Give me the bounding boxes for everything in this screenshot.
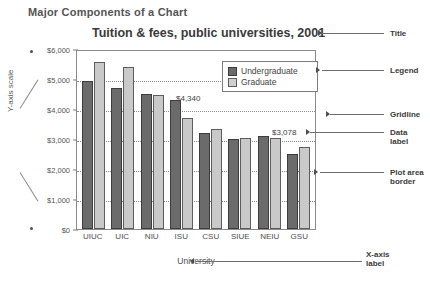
bar [141, 94, 152, 229]
y-axis-tick-label: $1,000 [47, 196, 70, 205]
bar [211, 129, 222, 229]
y-axis-tick-label: $2,000 [47, 166, 70, 175]
callout-arrow-title [318, 30, 322, 36]
bar-group [138, 51, 167, 229]
legend-item-graduate: Graduate [228, 77, 312, 87]
x-axis-tick-label: UIC [108, 232, 138, 246]
x-axis-tick-label: CSU [196, 232, 226, 246]
x-axis-tick-label: ISU [167, 232, 197, 246]
bar [94, 62, 105, 229]
y-axis-tick-label: $3,000 [47, 136, 70, 145]
bar [153, 95, 164, 229]
callout-leader-x-axis [196, 261, 362, 262]
callout-x-axis-label: X-axis label [366, 250, 390, 268]
bar-group [108, 51, 137, 229]
x-axis-tick-label: UIUC [78, 232, 108, 246]
legend: Undergraduate Graduate [222, 61, 318, 92]
callout-leader-plot-border [320, 172, 384, 173]
bar [111, 88, 122, 229]
y-scale-anchor-top [30, 50, 33, 53]
y-axis-tick-label: $6,000 [47, 46, 70, 55]
bar [199, 133, 210, 229]
bar [82, 81, 93, 229]
bar-group [79, 51, 108, 229]
y-axis-tick-label: $0 [62, 226, 70, 235]
y-axis: $0$1,000$2,000$3,000$4,000$5,000$6,000 [30, 50, 74, 230]
callout-arrow-plot-border [314, 169, 318, 175]
bar [123, 67, 134, 229]
x-axis-tick-label: SIUE [226, 232, 256, 246]
callout-legend: Legend [390, 66, 418, 75]
callout-arrow-data-label [306, 129, 310, 135]
bar-group [167, 51, 196, 229]
bar-group [196, 51, 225, 229]
legend-label: Graduate [241, 77, 276, 87]
legend-swatch-icon [228, 78, 237, 87]
x-axis-tick-label: GSU [285, 232, 315, 246]
legend-swatch-icon [228, 67, 237, 76]
callout-title: Title [390, 29, 406, 38]
bar [299, 147, 310, 229]
chart-title: Tuition & fees, public universities, 200… [92, 26, 322, 40]
data-label-isu-undergraduate: $4,340 [176, 94, 200, 103]
callout-leader-gridline [330, 114, 384, 115]
x-axis-tick-label: NEIU [255, 232, 285, 246]
x-axis-tick-label: NIU [137, 232, 167, 246]
callout-leader-title [322, 33, 384, 34]
callout-leader-data-label [310, 132, 384, 133]
callout-arrow-x-axis [190, 258, 194, 264]
y-axis-tick-label: $4,000 [47, 106, 70, 115]
callout-plot-area-border: Plot area border [390, 168, 424, 186]
figure-heading: Major Components of a Chart [28, 6, 187, 18]
x-axis: UIUCUICNIUISUCSUSIUENEIUGSU [76, 232, 316, 246]
y-axis-tick-label: $5,000 [47, 76, 70, 85]
y-axis-scale-label: Y-axis scale [6, 70, 15, 112]
callout-data-label: Data label [390, 128, 408, 146]
callout-leader-legend [322, 70, 384, 71]
callout-arrow-gridline [326, 111, 330, 117]
bar [182, 118, 193, 229]
callout-gridline: Gridline [390, 110, 420, 119]
bar [258, 136, 269, 229]
bar [287, 154, 298, 229]
legend-label: Undergraduate [241, 66, 298, 76]
bar [170, 100, 181, 229]
bar [228, 139, 239, 229]
chart-figure: Major Components of a Chart Tuition & fe… [0, 0, 430, 292]
callout-arrow-legend [316, 67, 320, 73]
legend-item-undergraduate: Undergraduate [228, 66, 312, 76]
data-label-neiu-graduate: $3,078 [272, 128, 296, 137]
bar [240, 138, 251, 229]
bar [270, 138, 281, 229]
y-scale-anchor-bottom [30, 227, 33, 230]
